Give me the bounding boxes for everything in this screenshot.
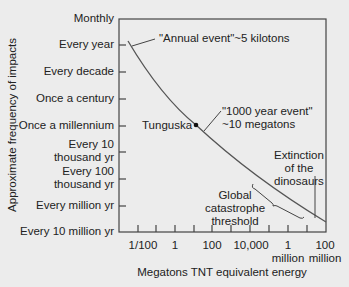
extinction-line3: dinosaurs	[274, 175, 324, 188]
x-label-1-million-line2: million	[272, 252, 305, 265]
x-label-100-million-line1: 100	[309, 239, 342, 252]
y-ticks	[119, 45, 126, 206]
x-label-1: 1	[172, 239, 178, 252]
global-line2: catastrophe	[205, 202, 265, 215]
y-label-monthly: Monthly	[74, 12, 114, 25]
extinction-line1: Extinction	[274, 149, 324, 162]
thousand-year-annotation: "1000 year event" ~10 megatons	[222, 105, 313, 131]
y-label-10k: Every 10 thousand yr	[54, 138, 114, 164]
tunguska-marker	[194, 123, 199, 128]
y-label-10k-line1: Every 10	[54, 138, 114, 151]
y-label-10k-line2: thousand yr	[54, 151, 114, 164]
global-catastrophe-annotation: Global catastrophe threshold	[205, 189, 265, 228]
annual-leader	[132, 39, 155, 46]
x-label-100-million-line2: million	[309, 252, 342, 265]
y-label-million: Every million yr	[36, 199, 114, 212]
y-label-100k-line2: thousand yr	[54, 178, 114, 191]
extinction-line2: of the	[274, 162, 324, 175]
y-label-year: Every year	[59, 38, 114, 51]
y-label-century: Once a century	[36, 92, 114, 105]
extinction-annotation: Extinction of the dinosaurs	[274, 149, 324, 188]
thousand-year-line1: "1000 year event"	[222, 105, 313, 118]
y-label-decade: Every decade	[44, 65, 114, 78]
x-label-1-million: 1 million	[272, 239, 305, 265]
y-label-100k-line1: Every 100	[54, 165, 114, 178]
global-line3: threshold	[205, 215, 265, 228]
x-label-10000: 10,000	[233, 239, 268, 252]
x-label-1-100: 1/100	[129, 239, 158, 252]
x-label-1-million-line1: 1	[272, 239, 305, 252]
y-axis-title: Approximate frequency of impacts	[6, 38, 18, 212]
annual-event-annotation: "Annual event"~5 kilotons	[159, 32, 290, 45]
thousand-year-leader	[204, 111, 221, 131]
thousand-year-line2: ~10 megatons	[222, 118, 313, 131]
y-label-10million: Every 10 million yr	[20, 225, 114, 238]
y-label-100k: Every 100 thousand yr	[54, 165, 114, 191]
tunguska-annotation: Tunguska	[142, 119, 192, 132]
x-label-100-million: 100 million	[309, 239, 342, 265]
y-label-millennium: Once a millennium	[19, 119, 114, 132]
global-line1: Global	[205, 189, 265, 202]
x-axis-title: Megatons TNT equivalent energy	[137, 266, 307, 278]
x-label-100: 100	[202, 239, 221, 252]
